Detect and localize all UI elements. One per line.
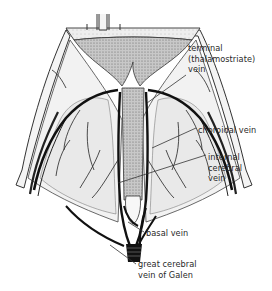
pineal-body [125, 196, 140, 224]
label-great-cerebral-vein-of-galen: great cerebral vein of Galen [138, 259, 197, 280]
label-internal-cerebral-vein: internal cerebral vein [208, 152, 242, 184]
label-choroidal-vein: choroidal vein [198, 125, 256, 136]
label-terminal-thalamostriate-vein: terminal (thalamostriate) vein [188, 43, 255, 75]
label-basal-vein: basal vein [146, 228, 188, 239]
third-ventricle [122, 88, 144, 200]
